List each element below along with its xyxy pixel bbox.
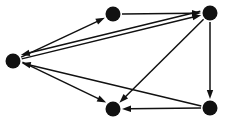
edge-arrowhead-icon — [207, 90, 213, 99]
edge-line — [22, 17, 195, 59]
edge-arrowhead-icon — [192, 14, 202, 20]
graph-edge-top-right-to-bottom-right — [207, 22, 213, 99]
edge-layer — [21, 10, 213, 112]
graph-edge-top-middle-to-top-right — [122, 10, 201, 16]
edge-line — [129, 108, 201, 109]
graph-node-top-middle[interactable] — [106, 7, 121, 22]
graph-edge-bottom-right-to-left — [22, 62, 201, 106]
diagram-canvas — [0, 0, 226, 124]
directed-graph — [0, 0, 226, 124]
edge-arrowhead-icon — [95, 18, 105, 25]
edge-line — [29, 65, 202, 106]
edge-line — [122, 13, 194, 14]
edge-line — [22, 62, 99, 99]
edge-arrowhead-icon — [21, 50, 31, 56]
graph-edge-bottom-right-to-bottom-middle — [122, 106, 201, 112]
graph-node-top-right[interactable] — [203, 6, 218, 21]
node-layer — [6, 6, 218, 117]
edge-arrowhead-icon — [97, 96, 106, 103]
graph-node-bottom-middle[interactable] — [106, 102, 121, 117]
graph-edge-left-to-bottom-middle — [22, 62, 106, 102]
graph-node-bottom-right[interactable] — [203, 101, 218, 116]
graph-node-left[interactable] — [6, 54, 21, 69]
edge-arrowhead-icon — [122, 106, 131, 112]
